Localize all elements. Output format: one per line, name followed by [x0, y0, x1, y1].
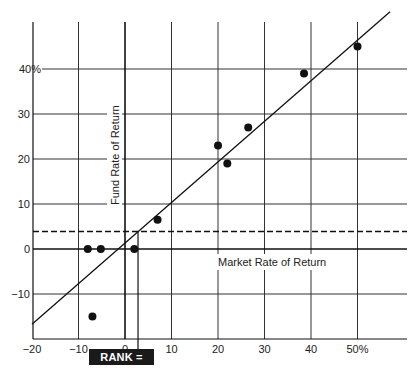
- y-tick-label: 20: [18, 153, 30, 165]
- data-point: [223, 160, 231, 168]
- y-tick-label: 0: [24, 243, 30, 255]
- x-tick-label: −20: [23, 343, 42, 355]
- data-point: [88, 313, 96, 321]
- y-tick-label: 10: [18, 198, 30, 210]
- data-point: [214, 142, 222, 150]
- x-axis-label: Market Rate of Return: [218, 256, 326, 268]
- axes: [33, 22, 407, 355]
- data-point: [244, 124, 252, 132]
- data-point: [300, 70, 308, 78]
- rank-badge: RANK = 3.02: [89, 349, 154, 365]
- data-point: [97, 245, 105, 253]
- x-tick-label: 40: [305, 343, 317, 355]
- y-axis-label: Fund Rate of Return: [109, 105, 121, 205]
- y-tick-label: 30: [18, 108, 30, 120]
- y-tick-label: −10: [11, 288, 30, 300]
- x-tick-label: 50%: [346, 343, 368, 355]
- scatter-chart: −20−1001020304050% −10010203040% Market …: [0, 0, 418, 377]
- grid-lines: [33, 22, 407, 339]
- data-point: [84, 245, 92, 253]
- x-tick-label: 20: [212, 343, 224, 355]
- data-point: [154, 216, 162, 224]
- x-tick-labels: −20−1001020304050%: [23, 343, 369, 355]
- y-tick-label: 40%: [19, 63, 41, 75]
- data-point: [130, 245, 138, 253]
- x-tick-label: −10: [69, 343, 88, 355]
- data-point: [354, 43, 362, 51]
- x-tick-label: 10: [165, 343, 177, 355]
- regression-line: [32, 12, 390, 324]
- y-tick-labels: −10010203040%: [11, 63, 41, 300]
- fit-line: [32, 12, 390, 324]
- x-tick-label: 30: [258, 343, 270, 355]
